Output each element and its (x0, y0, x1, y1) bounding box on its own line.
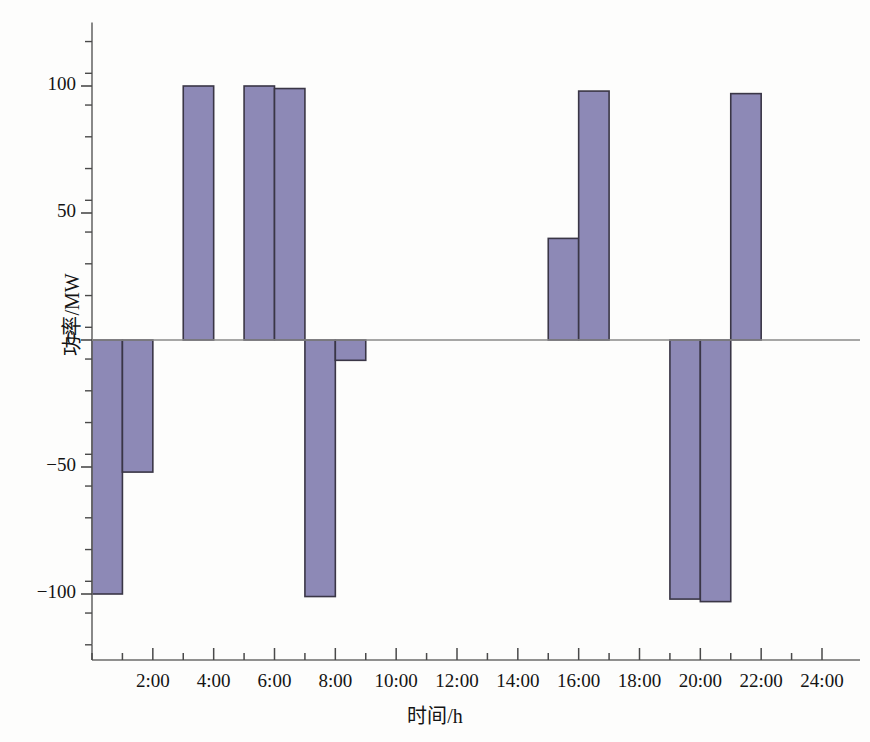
y-tick-label: 100 (48, 73, 77, 95)
y-tick-label: 50 (57, 200, 76, 222)
bar (731, 94, 761, 340)
bar (244, 86, 274, 340)
bar (700, 340, 730, 602)
bar (579, 91, 609, 340)
y-axis-title: 功率/MW (56, 255, 85, 375)
bar (183, 86, 213, 340)
bar (92, 340, 122, 594)
bar (305, 340, 335, 597)
y-tick-label: −100 (37, 581, 76, 603)
power-time-bar-chart-figure: 功率/MW 时间/h 100500−50−100 2:004:006:008:0… (0, 0, 870, 742)
bar (122, 340, 152, 472)
chart-canvas (0, 0, 870, 742)
bars-group (92, 86, 761, 602)
bar (548, 238, 578, 340)
bar (275, 89, 305, 340)
y-tick-label: 0 (67, 327, 77, 349)
bar (335, 340, 365, 360)
x-tick-label: 24:00 (782, 670, 862, 692)
bar (670, 340, 700, 599)
y-tick-label: −50 (46, 454, 76, 476)
x-axis-title: 时间/h (0, 700, 870, 729)
